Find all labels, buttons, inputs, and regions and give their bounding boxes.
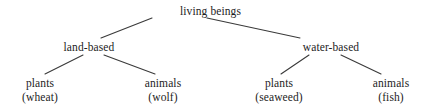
node-water-plants: plants (seaweed) — [219, 76, 339, 104]
edge-land-based-to-plants — [45, 55, 83, 74]
node-water-based-label: water-based — [261, 40, 401, 54]
node-land-based-label: land-based — [19, 40, 159, 54]
taxonomy-tree-diagram: living beings land-based water-based pla… — [0, 0, 421, 111]
node-water-plants-label: plants — [219, 76, 339, 90]
node-land-plants-label: plants — [0, 76, 100, 90]
node-water-based: water-based — [261, 40, 401, 54]
node-water-plants-example: (seaweed) — [219, 90, 339, 104]
node-land-plants: plants (wheat) — [0, 76, 100, 104]
node-water-animals: animals (fish) — [331, 76, 421, 104]
edge-water-based-to-animals — [341, 55, 381, 74]
node-land-animals-example: (wolf) — [103, 90, 223, 104]
edge-land-based-to-animals — [104, 55, 155, 74]
node-living-beings: living beings — [0, 4, 421, 18]
node-living-beings-label: living beings — [0, 4, 421, 18]
node-water-animals-example: (fish) — [331, 90, 421, 104]
node-land-animals-label: animals — [103, 76, 223, 90]
node-water-animals-label: animals — [331, 76, 421, 90]
node-land-based: land-based — [19, 40, 159, 54]
node-land-animals: animals (wolf) — [103, 76, 223, 104]
node-land-plants-example: (wheat) — [0, 90, 100, 104]
edge-root-to-land-based — [101, 18, 152, 38]
edge-root-to-water-based — [207, 18, 300, 38]
edge-water-based-to-plants — [281, 55, 309, 74]
